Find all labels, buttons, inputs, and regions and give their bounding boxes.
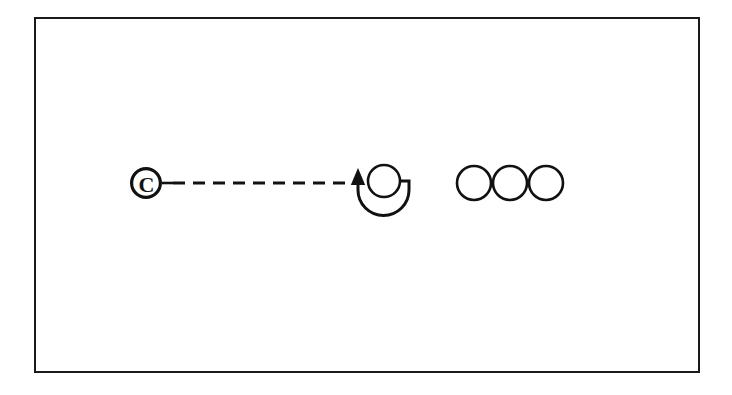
plain-node-3	[529, 166, 563, 200]
loop-arrow-head	[351, 168, 365, 185]
loop-node	[351, 165, 409, 216]
plain-node-1	[457, 166, 491, 200]
outer-border-rect	[35, 18, 699, 372]
copyright-node: C	[132, 169, 161, 198]
plain-node-2	[493, 166, 527, 200]
diagram-svg: C	[0, 0, 732, 395]
copyright-letter: C	[139, 172, 155, 197]
diagram-canvas: C	[0, 0, 732, 395]
loop-node-circle	[368, 165, 400, 197]
